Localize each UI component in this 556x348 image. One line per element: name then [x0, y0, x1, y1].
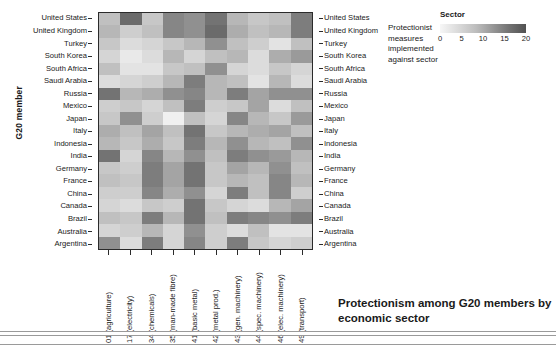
x-axis-tickmark [302, 250, 303, 255]
heatmap-cell [120, 125, 141, 137]
heatmap-cell [291, 137, 312, 149]
heatmap-cell [269, 137, 290, 149]
heatmap-cell [248, 150, 269, 162]
legend-tick-label: 0 [438, 34, 442, 43]
y-axis-labels-left: United StatesUnited KingdomTurkeySouth K… [0, 12, 92, 250]
heatmap-cell [269, 224, 290, 236]
heatmap-cell [142, 25, 163, 37]
heatmap-cell [227, 112, 248, 124]
y-axis-label-right: Canada [319, 200, 414, 213]
heatmap-cell [227, 224, 248, 236]
heatmap-cell [269, 212, 290, 224]
heatmap-cell [291, 199, 312, 211]
heatmap-cell [184, 100, 205, 112]
heatmap-cell [205, 125, 226, 137]
heatmap-cell [269, 112, 290, 124]
heatmap-cell [227, 63, 248, 75]
heatmap-cell [99, 174, 120, 186]
heatmap-cell [184, 13, 205, 25]
heatmap-cell [120, 38, 141, 50]
heatmap-cell [99, 38, 120, 50]
heatmap-cell [142, 75, 163, 87]
heatmap-cell [227, 162, 248, 174]
heatmap-cell [227, 199, 248, 211]
heatmap-cell [248, 38, 269, 50]
heatmap-cell [163, 174, 184, 186]
heatmap-cell [99, 100, 120, 112]
heatmap-cell [163, 63, 184, 75]
heatmap-cell [120, 150, 141, 162]
heatmap-cell [142, 224, 163, 236]
heatmap-cell [291, 88, 312, 100]
heatmap-cell [184, 150, 205, 162]
x-axis-tickmark [173, 250, 174, 255]
heatmap-plot-area [98, 12, 313, 250]
heatmap-cell [248, 162, 269, 174]
heatmap-cell [291, 212, 312, 224]
heatmap-cell [291, 50, 312, 62]
heatmap-cell [184, 25, 205, 37]
y-axis-label-right: Japan [319, 112, 414, 125]
heatmap-cell [205, 174, 226, 186]
heatmap-cell [163, 75, 184, 87]
x-axis-tickmark [151, 250, 152, 255]
heatmap-cell [99, 237, 120, 249]
heatmap-cell [99, 150, 120, 162]
heatmap-cell [99, 212, 120, 224]
heatmap-cell [269, 237, 290, 249]
heatmap-cell [99, 125, 120, 137]
heatmap-cell [205, 13, 226, 25]
heatmap-cell [163, 125, 184, 137]
heatmap-cell [142, 199, 163, 211]
y-axis-label-left: Brazil [0, 213, 92, 226]
heatmap-cell [269, 50, 290, 62]
heatmap-cell [99, 63, 120, 75]
heatmap-cell [205, 212, 226, 224]
heatmap-cell [99, 199, 120, 211]
heatmap-cell [205, 199, 226, 211]
heatmap-cell [205, 63, 226, 75]
heatmap-cell [269, 38, 290, 50]
heatmap-cell [227, 50, 248, 62]
heatmap-cell [120, 112, 141, 124]
heatmap-cell [120, 63, 141, 75]
y-axis-label-right: Argentina [319, 238, 414, 251]
heatmap-cell [291, 187, 312, 199]
heatmap-cell [99, 224, 120, 236]
heatmap-cell [291, 112, 312, 124]
heatmap-cell [248, 125, 269, 137]
heatmap-cell [99, 137, 120, 149]
heatmap-cell [120, 100, 141, 112]
heatmap-cell [227, 137, 248, 149]
heatmap-cell [291, 75, 312, 87]
heatmap-cell [248, 25, 269, 37]
heatmap-cell [120, 137, 141, 149]
y-axis-label-right: China [319, 187, 414, 200]
legend-tick-label: 5 [459, 34, 463, 43]
heatmap-cell [163, 187, 184, 199]
y-axis-label-right: Indonesia [319, 137, 414, 150]
y-axis-label-left: South Africa [0, 62, 92, 75]
heatmap-cell [142, 13, 163, 25]
heatmap-cell [142, 88, 163, 100]
heatmap-cell [248, 212, 269, 224]
y-axis-label-left: Saudi Arabia [0, 75, 92, 88]
heatmap-cell [248, 137, 269, 149]
heatmap-cell [269, 25, 290, 37]
heatmap-cell [205, 187, 226, 199]
heatmap-cell [269, 125, 290, 137]
heatmap-cell [291, 224, 312, 236]
heatmap-cell [163, 25, 184, 37]
heatmap-cell [142, 137, 163, 149]
heatmap-cell [248, 75, 269, 87]
heatmap-cell [184, 75, 205, 87]
heatmap-cell [142, 100, 163, 112]
heatmap-cell [163, 162, 184, 174]
heatmap-cell [163, 224, 184, 236]
heatmap-cell [120, 75, 141, 87]
heatmap-cell [205, 150, 226, 162]
legend-description: Protectionist measures implemented again… [388, 23, 440, 65]
heatmap-cell [227, 150, 248, 162]
legend-tick-label: 15 [500, 34, 508, 43]
heatmap-cell [227, 75, 248, 87]
